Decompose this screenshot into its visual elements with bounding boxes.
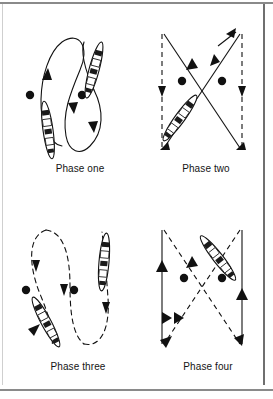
phase-four-diagram xyxy=(148,214,258,359)
phase-one-diagram xyxy=(18,18,128,163)
arrowhead-exit-lower-left xyxy=(28,324,40,336)
page-frame-bottom-rule xyxy=(0,389,273,391)
page-frame-left-rule xyxy=(2,4,3,385)
arrowhead-diag-down-right xyxy=(186,58,198,70)
caption-phase-three: Phase three xyxy=(18,361,138,372)
arrowhead-left-down xyxy=(158,86,166,97)
arrowhead-exit-up-right xyxy=(226,28,236,38)
caption-phase-one: Phase one xyxy=(20,163,140,174)
arrowhead-diag-lower-a xyxy=(162,312,172,324)
arrowhead-bottom-right xyxy=(236,142,246,150)
buoy-right xyxy=(218,77,226,85)
caption-phase-four: Phase four xyxy=(148,361,268,372)
kayak-lower-left xyxy=(39,101,57,160)
kayak-lower-left xyxy=(28,295,63,349)
arrowhead-down-mid xyxy=(68,102,78,114)
arrowhead-down-right xyxy=(88,121,98,133)
panel-phase-four xyxy=(148,214,258,359)
panel-phase-three xyxy=(18,214,128,359)
kayak-upper-right xyxy=(96,233,111,292)
buoy-left xyxy=(180,274,188,282)
figure-page: Phase one Phase two Phase three Phase fo… xyxy=(0,0,273,399)
buoy-right xyxy=(70,286,78,294)
arrowhead-up-left xyxy=(42,68,52,80)
phase-two-diagram xyxy=(148,18,258,163)
page-frame-right-rule xyxy=(263,4,265,385)
arrowhead-right-up xyxy=(236,288,248,300)
arrowhead-diag-down-right xyxy=(186,256,198,268)
arrowhead-left-up xyxy=(156,260,168,272)
buoy-right xyxy=(218,274,226,282)
buoy-left xyxy=(26,91,34,99)
page-frame-top-rule xyxy=(0,2,273,4)
arrowhead-diag-up-right xyxy=(210,54,220,66)
caption-phase-two: Phase two xyxy=(146,163,266,174)
panel-phase-two xyxy=(148,18,258,163)
buoy-left xyxy=(22,286,30,294)
panel-phase-one xyxy=(18,18,128,163)
buoy-left xyxy=(178,77,186,85)
arrowhead-down-mid xyxy=(60,284,68,296)
kayak-lower-left xyxy=(159,92,200,143)
arrowhead-right-down xyxy=(238,86,246,97)
phase-three-arrowheads xyxy=(28,260,110,336)
phase-four-arrowheads xyxy=(156,256,248,348)
arrowhead-bottom-right xyxy=(234,334,244,346)
phase-three-diagram xyxy=(18,214,128,359)
